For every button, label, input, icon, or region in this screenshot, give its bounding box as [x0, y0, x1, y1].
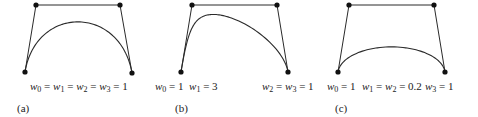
- weight-label: w0 = w1 = w2 = w3 = 1: [30, 81, 128, 92]
- control-point-0: [22, 69, 27, 74]
- weight-label: w3 = 1: [425, 81, 454, 92]
- control-point-1: [346, 2, 351, 7]
- panel-a: [22, 2, 134, 75]
- weight-label: w0 = 1: [327, 81, 356, 92]
- control-point-0: [335, 69, 340, 74]
- panel-c: [335, 2, 447, 74]
- control-point-1: [189, 2, 194, 7]
- weight-label: w0 = 1 w1 = 3: [155, 81, 218, 92]
- panel-caption-a: (a): [17, 103, 29, 114]
- weight-label: w1 = w2 = 0.2: [362, 81, 422, 92]
- rational-bezier-figure: [0, 0, 478, 117]
- control-point-2: [274, 2, 279, 7]
- control-point-3: [129, 70, 134, 75]
- panel-b: [178, 2, 290, 74]
- control-polygon: [338, 5, 445, 72]
- panel-caption-c: (c): [335, 103, 347, 114]
- control-polygon: [181, 5, 288, 72]
- control-point-1: [33, 2, 38, 7]
- control-point-2: [431, 2, 436, 7]
- rational-bezier-curve: [181, 14, 288, 72]
- weight-label: w2 = w3 = 1: [262, 81, 314, 92]
- control-point-2: [117, 2, 122, 7]
- control-point-3: [442, 69, 447, 74]
- rational-bezier-curve: [338, 47, 445, 72]
- panel-caption-b: (b): [175, 103, 188, 114]
- control-point-3: [285, 69, 290, 74]
- rational-bezier-curve: [25, 22, 132, 73]
- control-point-0: [178, 69, 183, 74]
